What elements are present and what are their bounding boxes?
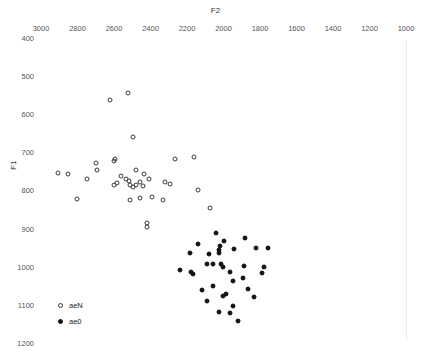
data-point-ae0 [259,271,264,276]
data-point-aeN [125,91,130,96]
data-point-aeN [93,161,98,166]
data-point-aeN [207,205,212,210]
data-point-ae0 [218,262,223,267]
data-point-ae0 [230,303,235,308]
data-point-aeN [160,197,165,202]
plot-right-border [406,40,407,340]
data-point-aeN [146,176,151,181]
data-point-ae0 [231,246,236,251]
filled-circle-icon [58,319,63,324]
y-tick-label: 700 [10,148,34,157]
x-tick-label: 1800 [252,24,269,33]
data-point-aeN [149,195,154,200]
data-point-ae0 [235,319,240,324]
data-point-ae0 [242,235,247,240]
data-point-ae0 [245,287,250,292]
data-point-aeN [144,225,149,230]
x-tick-label: 2400 [142,24,159,33]
y-tick-label: 1000 [10,262,34,271]
data-point-ae0 [204,262,209,267]
x-tick-label: 3000 [33,24,50,33]
y-tick-label: 500 [10,72,34,81]
legend-label-ae0: ae0 [69,314,82,329]
x-tick-label: 2600 [106,24,123,33]
y-tick-label: 1100 [10,300,34,309]
data-point-aeN [95,168,100,173]
data-point-aeN [55,170,60,175]
vowel-plot-figure: F2 F1 3000280026002400220020001800160014… [0,0,431,364]
data-point-ae0 [253,246,258,251]
y-axis-title: F1 [9,160,18,170]
data-point-ae0 [211,262,216,267]
data-point-aeN [112,182,117,187]
x-axis-title: F2 [0,6,431,15]
data-point-ae0 [216,250,221,255]
data-point-aeN [133,168,138,173]
x-tick-label: 2200 [179,24,196,33]
data-point-aeN [75,196,80,201]
data-point-aeN [172,156,177,161]
data-point-ae0 [240,276,245,281]
data-point-ae0 [206,252,211,257]
data-point-ae0 [251,294,256,299]
y-tick-label: 600 [10,110,34,119]
data-point-ae0 [227,311,232,316]
data-point-ae0 [265,245,270,250]
data-point-ae0 [223,291,228,296]
data-point-ae0 [230,279,235,284]
y-tick-label: 800 [10,186,34,195]
data-point-aeN [141,172,146,177]
x-tick-label: 1600 [288,24,305,33]
data-point-ae0 [213,231,218,236]
data-point-aeN [137,196,142,201]
x-tick-label: 2000 [215,24,232,33]
data-point-aeN [65,171,70,176]
y-tick-label: 1200 [10,338,34,347]
data-point-aeN [127,197,132,202]
y-tick-label: 400 [10,34,34,43]
data-point-ae0 [210,284,215,289]
data-point-ae0 [204,298,209,303]
scatter-plot-area [41,38,406,343]
data-point-aeN [195,188,200,193]
data-point-ae0 [261,264,266,269]
open-circle-icon [58,303,63,308]
data-point-ae0 [227,269,232,274]
legend-label-aeN: aeN [69,298,83,313]
data-point-ae0 [196,241,201,246]
x-tick-label: 1400 [325,24,342,33]
data-point-aeN [140,184,145,189]
data-point-ae0 [216,310,221,315]
data-point-ae0 [177,268,182,273]
data-point-ae0 [199,287,204,292]
data-point-ae0 [188,269,193,274]
y-tick-label: 900 [10,224,34,233]
x-tick-label: 2800 [69,24,86,33]
data-point-aeN [191,155,196,160]
x-tick-label: 1000 [398,24,415,33]
data-point-aeN [111,159,116,164]
data-point-aeN [84,176,89,181]
data-point-aeN [107,98,112,103]
data-point-ae0 [187,251,192,256]
data-point-ae0 [241,263,246,268]
x-tick-label: 1200 [361,24,378,33]
data-point-aeN [167,181,172,186]
data-point-ae0 [221,238,226,243]
data-point-aeN [130,135,135,140]
